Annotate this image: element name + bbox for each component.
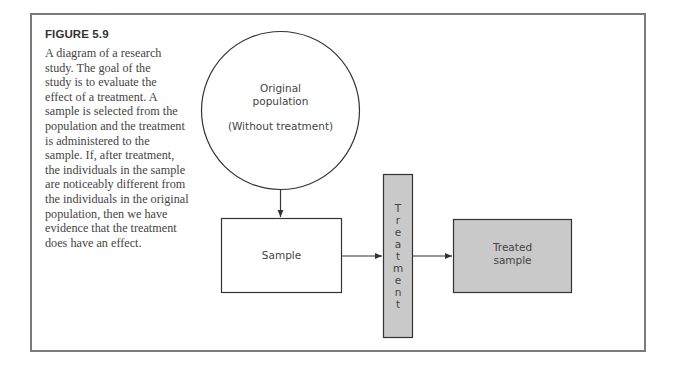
treatment-node: T r e a t m e n t bbox=[384, 175, 413, 338]
treatment-letter: a bbox=[395, 238, 401, 250]
treatment-letter: e bbox=[395, 274, 401, 286]
population-label-line1: Original bbox=[260, 82, 301, 94]
treatment-letter: T bbox=[394, 202, 402, 214]
treatment-letter: t bbox=[396, 298, 400, 310]
population-label-line2: population bbox=[253, 95, 309, 107]
treated-sample-label-line1: Treated bbox=[492, 241, 532, 253]
treatment-letter: r bbox=[396, 214, 401, 226]
sample-label: Sample bbox=[262, 249, 301, 261]
treatment-letter: m bbox=[393, 262, 403, 274]
treatment-letter: n bbox=[395, 286, 402, 298]
sample-node: Sample bbox=[222, 219, 342, 293]
population-node: Original population (Without treatment) bbox=[202, 32, 360, 190]
treatment-letter: e bbox=[395, 226, 401, 238]
treated-sample-label-line2: sample bbox=[493, 254, 531, 266]
population-label-line3: (Without treatment) bbox=[228, 120, 333, 132]
treatment-letter: t bbox=[396, 250, 400, 262]
research-diagram: Original population (Without treatment) … bbox=[0, 0, 679, 370]
treated-sample-node: Treated sample bbox=[454, 220, 572, 293]
